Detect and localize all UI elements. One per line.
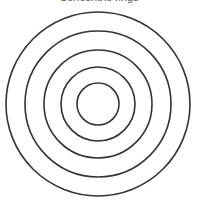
ring-5 (77, 83, 119, 125)
ring-1 (6, 12, 190, 196)
ring-4 (61, 67, 135, 141)
ring-2 (25, 31, 171, 177)
rings-group (6, 12, 190, 196)
concentric-circles-diagram (0, 0, 198, 202)
